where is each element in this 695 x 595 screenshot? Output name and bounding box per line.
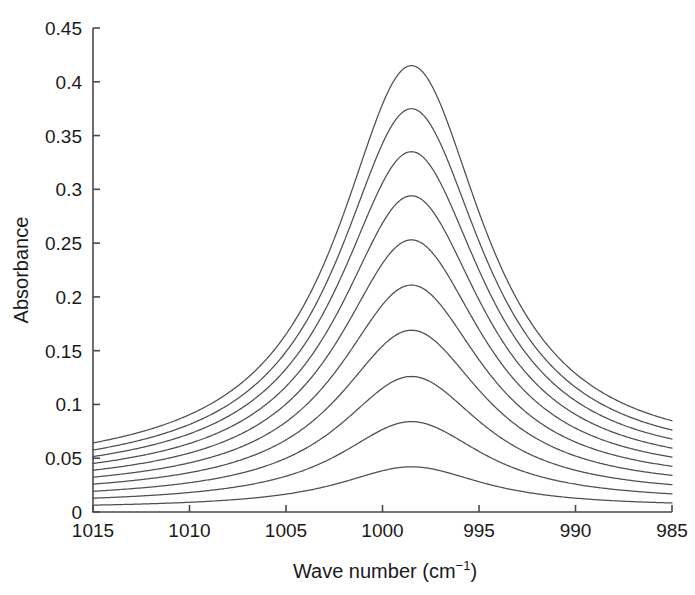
y-tick-label: 0.3 xyxy=(56,179,82,200)
y-tick-label: 0.25 xyxy=(45,233,82,254)
x-tick-label: 990 xyxy=(560,520,592,541)
y-axis-title: Absorbance xyxy=(10,217,32,324)
x-tick-label: 1015 xyxy=(72,520,114,541)
x-axis-title: Wave number (cm−1) xyxy=(293,558,477,582)
y-tick-label: 0 xyxy=(71,502,82,523)
spectrum-curve xyxy=(93,196,672,464)
x-tick-labels: 1015101010051000995990985 xyxy=(72,520,688,541)
y-tick-label: 0.1 xyxy=(56,394,82,415)
spectrum-curve xyxy=(93,240,672,470)
x-tick-label: 1010 xyxy=(168,520,210,541)
y-tick-label: 0.05 xyxy=(45,448,82,469)
spectrum-curve xyxy=(93,109,672,450)
spectrum-curves-group xyxy=(93,66,672,506)
x-tick-label: 985 xyxy=(656,520,688,541)
spectrum-curve xyxy=(93,66,672,443)
axis-spines xyxy=(93,28,672,512)
axis-group xyxy=(93,28,672,512)
y-tick-label: 0.2 xyxy=(56,287,82,308)
y-tick-labels: 00.050.10.150.20.250.30.350.40.45 xyxy=(45,18,82,523)
y-tick-label: 0.45 xyxy=(45,18,82,39)
spectrum-chart: 1015101010051000995990985 00.050.10.150.… xyxy=(0,0,695,595)
y-tick-label: 0.4 xyxy=(56,72,83,93)
y-tick-label: 0.35 xyxy=(45,126,82,147)
figure-canvas: 1015101010051000995990985 00.050.10.150.… xyxy=(0,0,695,595)
x-tick-label: 1000 xyxy=(361,520,403,541)
y-tick-label: 0.15 xyxy=(45,341,82,362)
x-tick-label: 1005 xyxy=(265,520,307,541)
x-tick-label: 995 xyxy=(463,520,495,541)
